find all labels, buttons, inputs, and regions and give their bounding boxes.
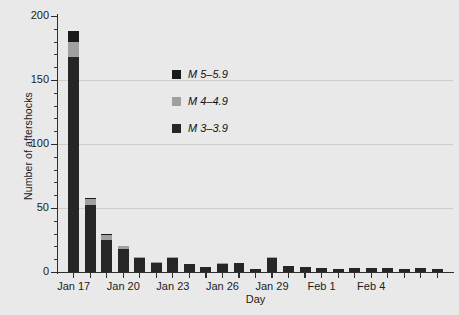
legend-swatch-m4-icon	[172, 97, 181, 106]
x-tick	[354, 272, 355, 278]
legend-swatch-m3-icon	[172, 124, 181, 133]
bar	[85, 198, 96, 272]
x-axis-title: Day	[58, 293, 453, 305]
y-tick-minor	[54, 259, 58, 260]
y-tick-major	[51, 208, 58, 209]
bar-segment	[200, 267, 211, 272]
bar	[118, 246, 129, 272]
x-tick-label: Jan 17	[57, 280, 90, 292]
y-tick-major	[51, 80, 58, 81]
bar	[101, 234, 112, 272]
y-tick-major	[51, 272, 58, 273]
bar-segment	[333, 269, 344, 272]
x-tick	[271, 272, 272, 278]
bar-segment	[68, 57, 79, 272]
x-tick	[189, 272, 190, 278]
bar-segment	[283, 266, 294, 272]
bar	[399, 269, 410, 272]
chart-legend: M 5–5.9 M 4–4.9 M 3–3.9	[172, 64, 302, 145]
x-tick	[90, 272, 91, 278]
y-tick-label: 200	[17, 10, 49, 21]
x-tick	[437, 272, 438, 278]
bar-segment	[151, 262, 162, 263]
bar-segment	[382, 268, 393, 272]
x-tick	[288, 272, 289, 278]
legend-item: M 4–4.9	[172, 91, 302, 111]
y-tick-label: 100	[17, 138, 49, 149]
bar	[300, 267, 311, 272]
x-tick	[172, 272, 173, 278]
y-tick-minor	[54, 42, 58, 43]
y-tick-minor	[54, 67, 58, 68]
bar-segment	[349, 268, 360, 272]
bar-segment	[366, 268, 377, 272]
bar	[217, 263, 228, 272]
y-tick-major	[51, 144, 58, 145]
chart-figure: Number of aftershocks Day 050100150200 J…	[0, 0, 459, 315]
legend-label: M 3–3.9	[188, 122, 228, 134]
x-tick-label: Jan 29	[256, 280, 289, 292]
bar	[316, 268, 327, 272]
bar-segment	[217, 264, 228, 272]
bar-segment	[118, 249, 129, 272]
bar-segment	[101, 234, 112, 235]
bar-segment	[267, 258, 278, 272]
x-tick-label: Jan 23	[156, 280, 189, 292]
bar	[184, 264, 195, 272]
bar-segment	[134, 257, 145, 258]
bar-segment	[267, 257, 278, 258]
y-tick-minor	[54, 195, 58, 196]
bar	[267, 257, 278, 272]
y-tick-label: 0	[17, 266, 49, 277]
x-tick	[371, 272, 372, 278]
x-tick	[255, 272, 256, 278]
bar	[415, 268, 426, 272]
bar	[134, 257, 145, 272]
legend-swatch-m5-icon	[172, 70, 181, 79]
y-tick-minor	[54, 131, 58, 132]
bar	[432, 269, 443, 272]
x-tick	[205, 272, 206, 278]
x-tick	[222, 272, 223, 278]
bar-segment	[316, 268, 327, 272]
bar-segment	[184, 264, 195, 272]
y-tick-minor	[54, 234, 58, 235]
bar-segment	[167, 258, 178, 272]
x-tick	[321, 272, 322, 278]
y-tick-minor	[54, 54, 58, 55]
bar	[349, 268, 360, 272]
bar-segment	[118, 246, 129, 249]
gridline	[58, 208, 453, 209]
x-tick	[139, 272, 140, 278]
x-tick-label: Feb 1	[308, 280, 336, 292]
bar-segment	[167, 257, 178, 258]
bar-segment	[85, 205, 96, 272]
bar	[151, 262, 162, 272]
x-tick-label: Jan 20	[107, 280, 140, 292]
x-tick	[404, 272, 405, 278]
legend-item: M 5–5.9	[172, 64, 302, 84]
legend-label: M 4–4.9	[188, 95, 228, 107]
bar-segment	[68, 42, 79, 57]
bar-segment	[217, 263, 228, 264]
bar	[382, 268, 393, 272]
bar-segment	[399, 269, 410, 272]
bar-segment	[85, 199, 96, 205]
y-tick-label: 150	[17, 74, 49, 85]
bar	[68, 31, 79, 272]
y-tick-minor	[54, 93, 58, 94]
x-tick-label: Jan 26	[206, 280, 239, 292]
bar-segment	[415, 268, 426, 272]
x-tick	[156, 272, 157, 278]
bar	[167, 257, 178, 272]
bar-segment	[234, 263, 245, 272]
x-tick	[387, 272, 388, 278]
x-tick	[420, 272, 421, 278]
x-tick	[338, 272, 339, 278]
bar-segment	[134, 258, 145, 272]
bar-segment	[68, 31, 79, 41]
bar	[250, 269, 261, 272]
y-tick-minor	[54, 29, 58, 30]
bar	[200, 267, 211, 272]
y-tick-major	[51, 16, 58, 17]
